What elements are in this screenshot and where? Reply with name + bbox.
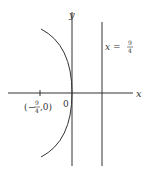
focus-numerator: 9: [35, 99, 39, 106]
directrix-label: x = 9 4: [105, 39, 133, 54]
directrix-equals: =: [113, 42, 121, 52]
origin-label: 0: [63, 99, 69, 109]
focus-point-label: ( − 9 4 ,0): [24, 99, 52, 114]
directrix-denominator: 4: [128, 47, 132, 54]
directrix-numerator: 9: [128, 39, 132, 46]
parabola-diagram: y x 0 x = 9 4 ( − 9 4 ,0): [0, 0, 152, 171]
focus-denominator: 4: [35, 107, 39, 114]
focus-open-paren: (: [24, 102, 28, 112]
directrix-var: x: [105, 42, 110, 52]
y-axis-label: y: [68, 9, 75, 20]
focus-rest: ,0): [40, 102, 52, 112]
x-axis-label: x: [136, 88, 142, 99]
